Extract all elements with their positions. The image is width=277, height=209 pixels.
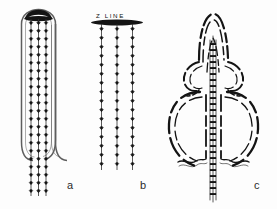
panel-a-outline bbox=[22, 10, 68, 161]
panel-letter-c: c bbox=[254, 180, 260, 191]
panel-c-central-chain bbox=[210, 36, 216, 202]
panel-b-chain-1 bbox=[99, 24, 104, 170]
panel-b-chain-2 bbox=[114, 24, 119, 170]
panel-a-drawing bbox=[22, 10, 68, 197]
panel-a-chain-2 bbox=[36, 19, 41, 196]
figure-illustration bbox=[0, 0, 277, 209]
panel-b-chain-3 bbox=[130, 24, 135, 170]
panel-letter-a: a bbox=[67, 180, 73, 191]
panel-c-drawing bbox=[169, 14, 258, 202]
panel-b-drawing bbox=[91, 20, 143, 170]
z-line-label: Z LINE bbox=[96, 12, 125, 19]
panel-letter-b: b bbox=[140, 180, 146, 191]
panel-a-chain-1 bbox=[28, 19, 33, 196]
figure-canvas: Z LINE a b c bbox=[0, 0, 277, 209]
panel-a-chain-3 bbox=[43, 19, 48, 196]
